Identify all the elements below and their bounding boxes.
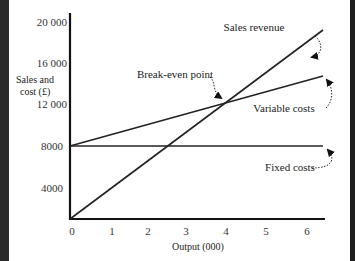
variable-costs-label: Variable costs [253,102,314,114]
y-axis-label-line1: Sales and [16,74,54,85]
sales-revenue-line [70,30,323,219]
x-tick-3: 3 [183,225,189,237]
y-tick-16000: 16 000 [37,57,68,69]
fixed-costs-arrow-icon [312,150,332,168]
x-tick-0: 0 [69,225,75,237]
variable-costs-arrow-icon [326,80,332,108]
y-tick-4000: 4000 [41,182,64,194]
break-even-label: Break-even point [137,68,213,80]
y-tick-20000: 20 000 [37,16,68,28]
x-tick-2: 2 [145,225,151,237]
y-axis-label-line2: cost (£) [20,86,50,98]
y-tick-8000: 8000 [41,140,64,152]
break-even-chart: 20 000 16 000 12 000 8000 4000 Sales and… [0,0,355,261]
break-even-arrow-icon [210,77,221,98]
sales-revenue-label: Sales revenue [224,21,285,33]
x-tick-6: 6 [304,225,310,237]
y-tick-12000: 12 000 [37,98,68,110]
sales-revenue-arrow-icon [312,36,321,57]
x-tick-1: 1 [109,225,115,237]
x-tick-5: 5 [263,225,269,237]
x-axis-label: Output (000) [172,241,224,253]
x-tick-4: 4 [223,225,229,237]
fixed-costs-label: Fixed costs [265,161,315,173]
